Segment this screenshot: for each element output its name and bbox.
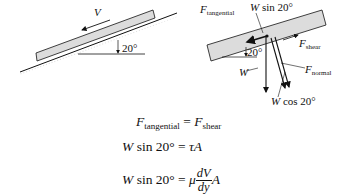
fbd-angle-label: 20° — [247, 47, 262, 58]
velocity-label: V — [94, 7, 101, 18]
f-normal-label: Fnormal — [305, 64, 332, 77]
equation-viscosity: W sin 20° = μdVdyA — [122, 167, 220, 194]
w-cos-label: W cos 20° — [271, 96, 316, 107]
free-body-diagram — [207, 10, 326, 97]
ground-hatching — [20, 13, 177, 76]
equation-shear-stress: W sin 20° = τA — [122, 140, 202, 154]
f-shear-label: Fshear — [299, 38, 321, 51]
w-sin-label: W sin 20° — [250, 2, 293, 13]
inclined-plane-diagram — [20, 10, 177, 76]
weight-label: W — [239, 67, 248, 78]
leader-f-normal — [281, 63, 305, 68]
incline-angle-label: 20° — [122, 43, 137, 54]
w-cos-arrow-icon — [275, 37, 289, 87]
velocity-gradient-fraction: dVdy — [196, 167, 212, 194]
incline-surface — [20, 13, 177, 72]
equation-force-balance: Ftangential = Fshear — [136, 115, 221, 131]
f-tangential-label: Ftangential — [200, 4, 234, 17]
